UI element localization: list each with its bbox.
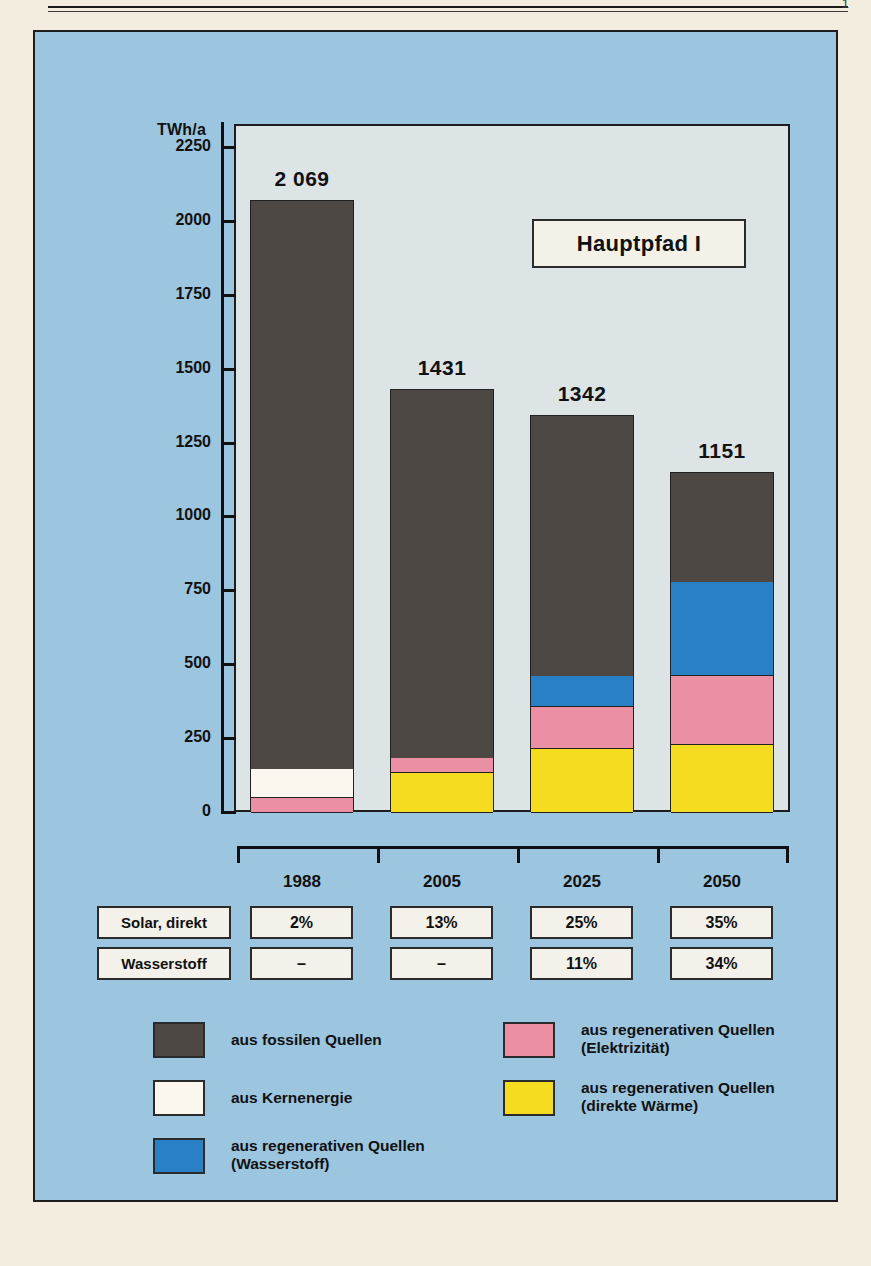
legend-swatch-electricity [503, 1022, 555, 1058]
table-cell-r1-c0: – [250, 947, 353, 980]
table-cell-r0-c3: 35% [670, 906, 773, 939]
table-cell-r1-c2: 11% [530, 947, 633, 980]
y-tick-2000 [221, 220, 236, 223]
y-axis-line [221, 122, 224, 814]
y-tick-0 [221, 811, 236, 814]
bar-value-2050: 1151 [670, 439, 774, 463]
category-tick-3 [657, 846, 660, 863]
bar-segment-hydrogen [671, 582, 773, 675]
bar-segment-regen_elec [391, 758, 493, 773]
bar-1988 [250, 200, 354, 812]
bar-value-2005: 1431 [390, 356, 494, 380]
category-label-2025: 2025 [530, 872, 634, 892]
bar-segment-solar_heat [391, 773, 493, 813]
bar-segment-fossil [531, 416, 633, 675]
y-tick-label-1500: 1500 [131, 359, 211, 377]
bar-segment-regen_elec [251, 798, 353, 813]
bar-segment-regen_elec [671, 676, 773, 745]
y-tick-500 [221, 663, 236, 666]
legend-label-4: aus regenerativen Quellen (direkte Wärme… [581, 1079, 775, 1115]
y-tick-label-250: 250 [131, 728, 211, 746]
category-axis-rail [237, 846, 789, 849]
table-cell-r0-c0: 2% [250, 906, 353, 939]
y-tick-label-1750: 1750 [131, 285, 211, 303]
page-top-rule [48, 6, 848, 8]
y-tick-1000 [221, 515, 236, 518]
y-tick-label-1000: 1000 [131, 506, 211, 524]
bar-value-1988: 2 069 [250, 167, 354, 191]
table-row-label-1: Wasserstoff [97, 947, 231, 980]
bar-segment-solar_heat [671, 745, 773, 813]
page-top-rule-thin [48, 11, 848, 12]
bar-segment-hydrogen [531, 676, 633, 707]
y-tick-label-2250: 2250 [131, 137, 211, 155]
legend-label-0: aus fossilen Quellen [231, 1031, 382, 1049]
bar-value-2025: 1342 [530, 382, 634, 406]
y-tick-250 [221, 737, 236, 740]
bar-2005 [390, 389, 494, 812]
legend-swatch-hydrogen [153, 1138, 205, 1174]
table-row-label-0: Solar, direkt [97, 906, 231, 939]
category-tick-0 [237, 846, 240, 863]
bar-segment-fossil [251, 201, 353, 768]
table-cell-r1-c1: – [390, 947, 493, 980]
category-label-2005: 2005 [390, 872, 494, 892]
scenario-title-box: Hauptpfad I [532, 219, 746, 268]
y-tick-label-750: 750 [131, 580, 211, 598]
legend-swatch-heat [503, 1080, 555, 1116]
chart-panel: TWh/a 0250500750100012501500175020002250… [33, 30, 838, 1202]
y-tick-1250 [221, 442, 236, 445]
legend-label-3: aus regenerativen Quellen (Elektrizität) [581, 1021, 775, 1057]
category-tick-4 [786, 846, 789, 863]
y-tick-label-2000: 2000 [131, 211, 211, 229]
table-cell-r0-c2: 25% [530, 906, 633, 939]
legend-swatch-nuclear [153, 1080, 205, 1116]
bar-segment-solar_heat [531, 749, 633, 813]
y-tick-label-1250: 1250 [131, 433, 211, 451]
y-tick-1500 [221, 368, 236, 371]
bar-segment-fossil [391, 390, 493, 758]
y-tick-label-0: 0 [131, 802, 211, 820]
category-label-2050: 2050 [670, 872, 774, 892]
page-folio: 1 [842, 0, 849, 11]
legend-label-1: aus Kernenergie [231, 1089, 352, 1107]
bar-segment-regen_elec [531, 707, 633, 750]
bar-segment-nuclear [251, 769, 353, 799]
y-tick-750 [221, 589, 236, 592]
bar-segment-fossil [671, 473, 773, 583]
legend-swatch-fossil [153, 1022, 205, 1058]
category-tick-2 [517, 846, 520, 863]
category-label-1988: 1988 [250, 872, 354, 892]
table-cell-r0-c1: 13% [390, 906, 493, 939]
y-tick-label-500: 500 [131, 654, 211, 672]
legend-label-2: aus regenerativen Quellen (Wasserstoff) [231, 1137, 425, 1173]
y-tick-1750 [221, 294, 236, 297]
bar-2025 [530, 415, 634, 812]
category-tick-1 [377, 846, 380, 863]
y-tick-2250 [221, 146, 236, 149]
table-cell-r1-c3: 34% [670, 947, 773, 980]
bar-2050 [670, 472, 774, 812]
